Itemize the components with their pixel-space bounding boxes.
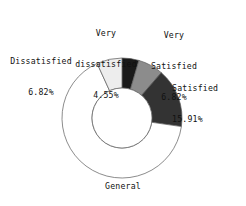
slice-label-satisfied-name: Satisfied	[172, 83, 244, 93]
slice-label-general-name: General	[86, 181, 160, 191]
slice-label-satisfied: Satisfied 15.91%	[172, 63, 244, 145]
slice-label-general: General 65.91%	[86, 161, 160, 206]
slice-label-very-satisfied-name-line1: Very	[143, 30, 205, 40]
slice-label-satisfied-value: 15.91%	[172, 114, 244, 124]
slice-label-dissatisfied: Dissatisfied 6.82%	[2, 36, 80, 118]
slice-label-dissatisfied-value: 6.82%	[2, 87, 80, 97]
donut-chart: Very dissatisfied 4.55% Very Satisfied 6…	[0, 0, 246, 206]
slice-label-dissatisfied-name: Dissatisfied	[2, 56, 80, 66]
